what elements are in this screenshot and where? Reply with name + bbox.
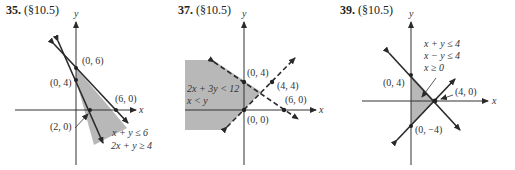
axis-label-x: x	[318, 104, 324, 115]
pointer-arrow	[75, 114, 88, 128]
point-label: (6, 0)	[285, 94, 307, 106]
inequality-label: x ≥ 0	[423, 62, 444, 73]
point-label: (2, 0)	[50, 121, 72, 133]
inequality-label: x < y	[186, 95, 208, 106]
point-0-4	[242, 80, 246, 84]
axis-label-y: y	[241, 8, 247, 19]
point-0-neg4	[409, 124, 413, 128]
point-label: (0, 4)	[247, 67, 269, 79]
point-6-0	[282, 108, 286, 112]
axis-label-y: y	[408, 8, 414, 19]
point-label: (6, 0)	[115, 93, 137, 105]
point-label: (0, −4)	[415, 124, 442, 136]
problem-39: 39. (§10.5) y x (0, 4) (4, 0) (0, −4) x …	[340, 0, 515, 170]
axis-label-y: y	[73, 8, 79, 19]
inequality-label: 2x + y ≥ 4	[111, 140, 152, 151]
point-label: (0, 4)	[383, 77, 405, 89]
point-label: (4, 4)	[277, 80, 299, 92]
inequality-label: x + y ≤ 6	[111, 127, 148, 138]
inequality-label: 2x + 3y < 12	[187, 83, 239, 94]
pointer-arrow	[441, 95, 453, 99]
point-0-6	[74, 66, 78, 70]
point-label: (0, 4)	[50, 77, 72, 89]
point-label: (0, 6)	[82, 55, 104, 67]
point-0-4	[409, 73, 413, 77]
graph-39: y x (0, 4) (4, 0) (0, −4) x + y ≤ 4 x − …	[340, 0, 515, 170]
problem-37: 37. (§10.5) y x (0, 4) (4, 4) (6, 0) (0,…	[170, 0, 350, 170]
point-2-0	[88, 108, 92, 112]
point-label: (4, 0)	[455, 86, 477, 98]
graph-37: y x (0, 4) (4, 4) (6, 0) (0, 0) 2x + 3y …	[170, 0, 350, 170]
point-4-0	[433, 99, 438, 104]
point-0-4	[74, 78, 78, 82]
inequality-label: x − y ≤ 4	[423, 50, 460, 61]
inequality-label: x + y ≤ 4	[423, 38, 460, 49]
axis-label-x: x	[138, 104, 144, 115]
pointer-arrow	[422, 78, 436, 97]
point-label: (0, 0)	[247, 114, 269, 126]
problem-35: 35. (§10.5) y x (0, 6) (0, 4) (6, 0) (2,…	[0, 0, 175, 170]
point-4-4	[270, 80, 274, 84]
axis-label-x: x	[491, 95, 497, 106]
point-6-0	[114, 108, 118, 112]
graph-35: y x (0, 6) (0, 4) (6, 0) (2, 0) x + y ≤ …	[0, 0, 175, 170]
point-0-0	[242, 108, 246, 112]
